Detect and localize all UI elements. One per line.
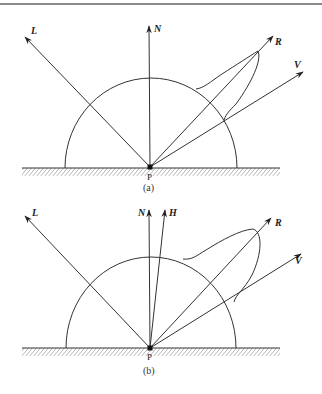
label-v: V (294, 59, 302, 70)
vector-h (150, 210, 165, 348)
vector-n (149, 210, 150, 348)
label-r: R (274, 217, 282, 228)
point-p (148, 165, 153, 170)
vector-v (150, 254, 301, 348)
label-p: P (147, 172, 152, 182)
label-h: H (168, 207, 178, 218)
reflection-diagram: L N R V P (a) L N H R V P (b) (0, 0, 322, 394)
vector-n (149, 26, 150, 167)
caption-b: (b) (143, 365, 155, 377)
vector-l (25, 37, 150, 167)
panel-a: L N R V P (a) (22, 23, 303, 194)
panel-b: L N H R V P (b) (22, 207, 303, 377)
label-r: R (274, 36, 282, 47)
point-p (148, 346, 153, 351)
label-n: N (137, 207, 146, 218)
label-l: L (30, 25, 37, 36)
label-p: P (147, 352, 152, 362)
vector-r (150, 218, 271, 348)
caption-a: (a) (143, 182, 154, 194)
vector-l (25, 216, 150, 348)
label-n: N (153, 23, 162, 34)
label-l: L (31, 207, 38, 218)
label-v: V (295, 255, 303, 266)
diffuse-hemisphere (65, 78, 237, 168)
specular-lobe (183, 229, 260, 302)
